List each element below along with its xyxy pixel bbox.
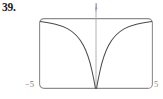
- graph-svg: [39, 18, 153, 89]
- x-axis-max-tick-label: 5: [154, 80, 158, 89]
- y-axis-max-tick-label: 1: [94, 2, 98, 11]
- graph-viewing-window: [39, 18, 153, 89]
- figure-container: 39. 1 −5 5: [0, 0, 163, 99]
- x-axis-min-tick-label: −5: [25, 80, 34, 89]
- problem-number-label: 39.: [2, 1, 16, 14]
